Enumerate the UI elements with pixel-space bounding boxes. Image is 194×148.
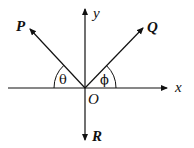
vector-p-label: P [16,18,26,34]
x-axis-label: x [174,79,182,95]
vector-q-label: Q [147,19,158,35]
vector-diagram: θ ϕ P Q R y x O [0,0,194,148]
vector-r-label: R [91,128,102,144]
y-axis-label: y [91,5,100,21]
vector-q [85,28,143,88]
theta-label: θ [59,72,67,87]
origin-label: O [88,91,99,107]
phi-label: ϕ [100,72,109,87]
vector-p [30,29,85,88]
